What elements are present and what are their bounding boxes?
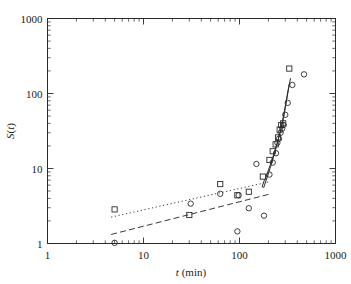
chart-canvas: 11010010001101001000 t (min) S(t) xyxy=(0,0,351,284)
y-tick-label: 1000 xyxy=(21,13,44,25)
x-tick-label: 10 xyxy=(138,249,150,261)
y-tick-label: 10 xyxy=(32,163,44,175)
plot-background xyxy=(0,0,351,284)
figure-container: 11010010001101001000 t (min) S(t) xyxy=(0,0,351,284)
y-tick-label: 1 xyxy=(37,238,43,250)
x-tick-label: 1000 xyxy=(325,249,348,261)
y-tick-label: 100 xyxy=(26,88,43,100)
x-tick-label: 1 xyxy=(45,249,51,261)
x-axis-label: t (min) xyxy=(176,266,207,279)
x-tick-label: 100 xyxy=(231,249,248,261)
y-axis-label: S(t) xyxy=(4,123,17,139)
